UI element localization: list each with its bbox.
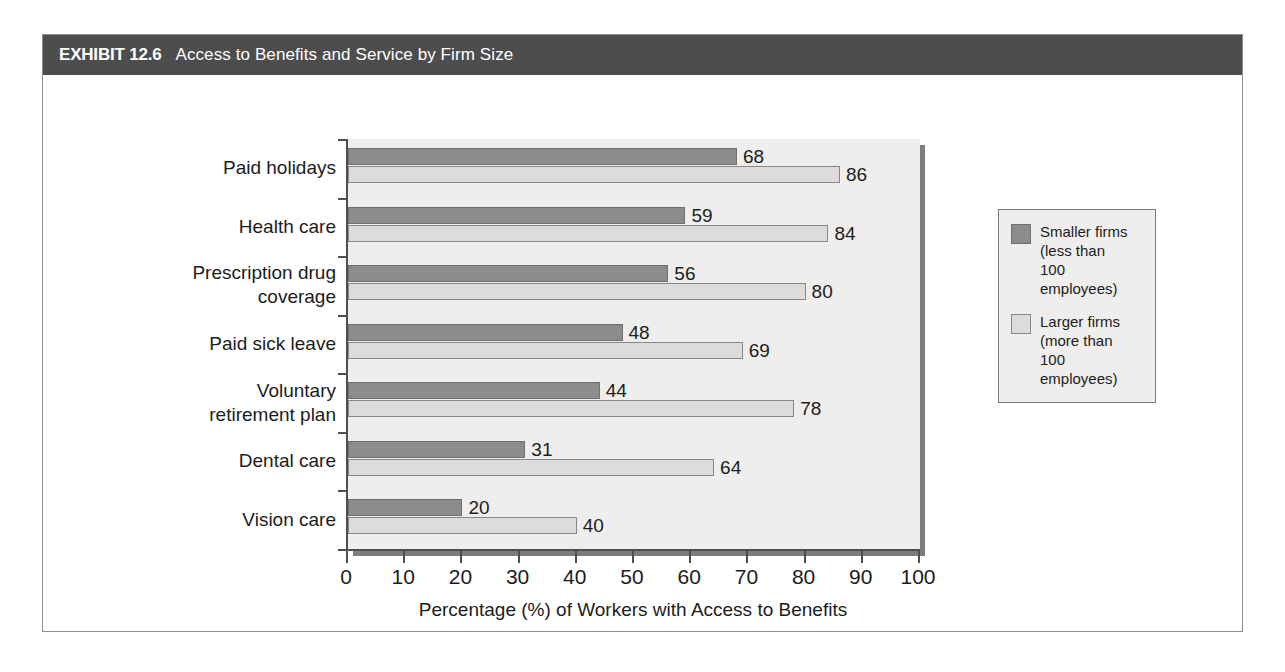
chart-region: 6886598456804869447831642040 Paid holida…: [43, 75, 1242, 631]
bar-group: 4869: [348, 315, 920, 374]
x-axis-tick-label: 10: [392, 565, 415, 589]
legend-label: Larger firms (more than 100 employees): [1040, 312, 1145, 388]
x-axis-tick: [632, 549, 634, 563]
bar-group: 5984: [348, 198, 920, 257]
bar-value-label: 78: [800, 399, 821, 418]
x-axis-tick: [346, 549, 348, 563]
x-axis-tick-label: 40: [563, 565, 586, 589]
x-axis-title: Percentage (%) of Workers with Access to…: [346, 599, 920, 621]
y-axis-tick: [338, 373, 348, 375]
bar-group: 5680: [348, 256, 920, 315]
y-axis-tick: [338, 315, 348, 317]
x-axis-tick-label: 70: [735, 565, 758, 589]
bar-group: 2040: [348, 490, 920, 549]
legend-swatch-large-firms: [1011, 314, 1031, 334]
bar-small-firms: [348, 207, 685, 224]
x-axis-tick-label: 20: [449, 565, 472, 589]
bar-large-firms: [348, 166, 840, 183]
bar-value-label: 68: [743, 147, 764, 166]
x-axis-tick: [460, 549, 462, 563]
bar-value-label: 20: [468, 498, 489, 517]
x-axis-tick-label: 60: [678, 565, 701, 589]
bar-value-label: 40: [583, 516, 604, 535]
chart-legend: Smaller firms (less than 100 employees)L…: [998, 209, 1156, 403]
x-axis-tick: [575, 549, 577, 563]
category-label: Paid sick leave: [106, 332, 336, 356]
category-label: Paid holidays: [106, 156, 336, 180]
legend-item: Smaller firms (less than 100 employees): [1011, 222, 1145, 298]
category-label: Vision care: [106, 508, 336, 532]
bar-value-label: 80: [812, 282, 833, 301]
bar-group: 3164: [348, 432, 920, 491]
x-axis-tick-label: 80: [792, 565, 815, 589]
bar-large-firms: [348, 225, 828, 242]
x-axis-tick: [804, 549, 806, 563]
plot-area: 6886598456804869447831642040: [346, 139, 920, 549]
bar-value-label: 31: [531, 440, 552, 459]
bar-group: 4478: [348, 373, 920, 432]
bar-group: 6886: [348, 139, 920, 198]
bar-value-label: 56: [674, 264, 695, 283]
x-axis-tick-label: 100: [900, 565, 935, 589]
bar-large-firms: [348, 342, 743, 359]
bar-small-firms: [348, 148, 737, 165]
category-axis-labels: Paid holidaysHealth carePrescription dru…: [106, 139, 336, 549]
x-axis-tick-label: 50: [620, 565, 643, 589]
bar-large-firms: [348, 517, 577, 534]
bar-value-label: 44: [606, 381, 627, 400]
bar-value-label: 84: [834, 224, 855, 243]
x-axis-tick: [918, 549, 920, 563]
exhibit-header: EXHIBIT 12.6 Access to Benefits and Serv…: [43, 35, 1242, 75]
bar-large-firms: [348, 283, 806, 300]
bar-value-label: 48: [629, 323, 650, 342]
x-axis-tick-label: 90: [849, 565, 872, 589]
x-axis-tick: [861, 549, 863, 563]
x-axis-tick: [689, 549, 691, 563]
category-label: Voluntaryretirement plan: [106, 379, 336, 427]
bar-value-label: 69: [749, 341, 770, 360]
y-axis-tick: [338, 198, 348, 200]
x-axis-tick-label: 30: [506, 565, 529, 589]
bar-value-label: 64: [720, 458, 741, 477]
category-label: Health care: [106, 215, 336, 239]
bar-small-firms: [348, 499, 462, 516]
bar-small-firms: [348, 441, 525, 458]
category-label: Prescription drugcoverage: [106, 261, 336, 309]
bar-value-label: 86: [846, 165, 867, 184]
category-label: Dental care: [106, 449, 336, 473]
legend-item: Larger firms (more than 100 employees): [1011, 312, 1145, 388]
x-axis-tick-label: 0: [340, 565, 352, 589]
y-axis-tick: [338, 139, 348, 141]
exhibit-card: EXHIBIT 12.6 Access to Benefits and Serv…: [42, 34, 1243, 632]
exhibit-title: Access to Benefits and Service by Firm S…: [175, 45, 513, 65]
y-axis-tick: [338, 432, 348, 434]
bar-small-firms: [348, 265, 668, 282]
x-axis-tick: [403, 549, 405, 563]
y-axis-tick: [338, 256, 348, 258]
bar-large-firms: [348, 459, 714, 476]
bar-small-firms: [348, 324, 623, 341]
x-axis-tick: [518, 549, 520, 563]
bar-value-label: 59: [691, 206, 712, 225]
x-axis-tick: [746, 549, 748, 563]
legend-swatch-small-firms: [1011, 224, 1031, 244]
bar-small-firms: [348, 382, 600, 399]
bar-large-firms: [348, 400, 794, 417]
y-axis-tick: [338, 490, 348, 492]
exhibit-number: EXHIBIT 12.6: [59, 45, 161, 65]
legend-label: Smaller firms (less than 100 employees): [1040, 222, 1145, 298]
